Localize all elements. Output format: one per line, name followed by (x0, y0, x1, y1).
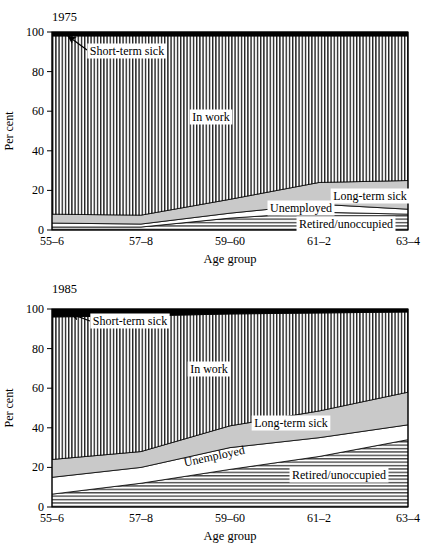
band-label-retired-unoccupied: Retired/unoccupied (297, 217, 396, 232)
callout-label-short-term-sick-text: Short-term sick (90, 44, 164, 58)
x-axis: 55–657–859–6061–263–4 (40, 234, 420, 248)
band-label-in-work: In work (190, 110, 233, 125)
band-label-retired-unoccupied-text: Retired/unoccupied (292, 468, 386, 482)
x-category-label: 57–8 (129, 511, 153, 525)
x-category-label: 61–2 (307, 234, 331, 248)
callout-label-short-term-sick: Short-term sick (87, 44, 166, 59)
band-label-long-term-sick-text: Long-term sick (254, 416, 328, 430)
band-label-long-term-sick: Long-term sick (331, 189, 410, 204)
y-axis: 020406080100 (26, 302, 52, 514)
y-axis-title: Per cent (2, 111, 16, 151)
chart-title: 1985 (52, 282, 77, 296)
y-tick-label: 60 (32, 104, 44, 118)
band-label-long-term-sick: Long-term sick (252, 416, 331, 431)
y-tick-label: 40 (32, 144, 44, 158)
chart-1985: 02040608010055–657–859–6061–263–4Per cen… (0, 277, 434, 555)
band-label-retired-unoccupied: Retired/unoccupied (290, 468, 389, 483)
band-label-in-work-text: In work (190, 362, 228, 376)
chart-title: 1975 (52, 10, 77, 24)
y-axis-title: Per cent (2, 388, 16, 428)
band-short-term-sick (52, 32, 408, 36)
x-category-label: 59–60 (215, 234, 245, 248)
x-category-label: 55–6 (40, 234, 64, 248)
band-label-unemployed-text: Unemployed (270, 201, 332, 215)
y-tick-label: 80 (32, 342, 44, 356)
band-label-unemployed: Unemployed (268, 201, 335, 216)
page: { "colors": { "background": "#ffffff", "… (0, 0, 434, 555)
x-category-label: 63–4 (396, 511, 420, 525)
chart-1975: 02040608010055–657–859–6061–263–4Per cen… (0, 0, 434, 277)
band-label-long-term-sick-text: Long-term sick (333, 189, 407, 203)
x-axis: 55–657–859–6061–263–4 (40, 511, 420, 525)
y-axis: 020406080100 (26, 25, 52, 237)
y-tick-label: 20 (32, 183, 44, 197)
y-tick-label: 20 (32, 460, 44, 474)
stacked-area-figure: 02040608010055–657–859–6061–263–4Per cen… (0, 0, 434, 555)
x-category-label: 63–4 (396, 234, 420, 248)
y-tick-label: 100 (26, 302, 44, 316)
callout-label-short-term-sick: Short-term sick (90, 314, 169, 329)
y-tick-label: 40 (32, 421, 44, 435)
y-tick-label: 80 (32, 65, 44, 79)
x-category-label: 55–6 (40, 511, 64, 525)
x-axis-title: Age group (203, 252, 256, 266)
y-tick-label: 100 (26, 25, 44, 39)
x-axis-title: Age group (203, 529, 256, 543)
band-label-retired-unoccupied-text: Retired/unoccupied (299, 217, 393, 231)
x-category-label: 59–60 (215, 511, 245, 525)
x-category-label: 61–2 (307, 511, 331, 525)
y-tick-label: 60 (32, 381, 44, 395)
callout-label-short-term-sick-text: Short-term sick (93, 314, 167, 328)
x-category-label: 57–8 (129, 234, 153, 248)
band-label-in-work: In work (188, 362, 231, 377)
band-label-in-work-text: In work (192, 110, 230, 124)
